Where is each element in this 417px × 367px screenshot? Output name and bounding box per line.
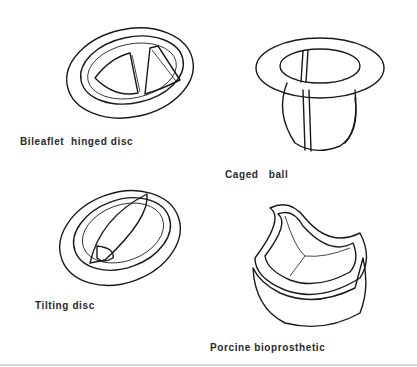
porcine-valve-illustration [245, 198, 375, 333]
caged-ball-valve-illustration [255, 28, 390, 158]
bottom-divider [0, 364, 417, 366]
caged-ball-label: Caged ball [225, 169, 288, 180]
porcine-label: Porcine bioprosthetic [210, 342, 325, 353]
bileaflet-valve-illustration [60, 18, 200, 123]
tilting-disc-label: Tilting disc [35, 300, 95, 311]
tilting-disc-valve-illustration [55, 188, 190, 293]
bileaflet-label: Bileaflet hinged disc [20, 136, 133, 147]
